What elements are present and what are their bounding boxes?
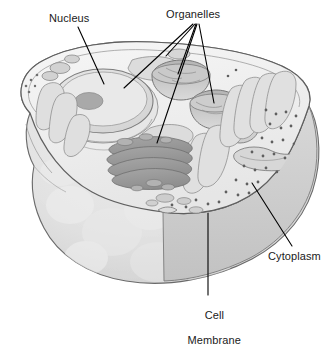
label-cell-membrane-line2: Membrane [188,334,241,346]
label-organelles: Organelles [166,8,220,21]
golgi-apparatus [107,134,192,191]
nucleolus [75,93,103,110]
label-cell-membrane-line1: Cell [205,309,224,321]
label-cytoplasm: Cytoplasm [268,250,321,263]
label-cell-membrane: Cell Membrane [163,296,253,348]
label-nucleus: Nucleus [49,12,89,25]
